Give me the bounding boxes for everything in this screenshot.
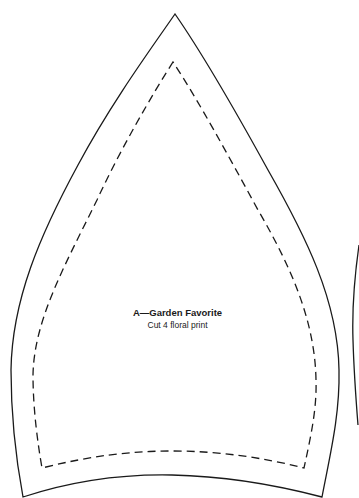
piece-cut-instruction: Cut 4 floral print — [0, 321, 359, 330]
cutting-line — [11, 14, 339, 497]
pattern-page: A—Garden Favorite Cut 4 floral print — [0, 0, 359, 498]
pattern-template-drawing — [0, 0, 359, 498]
piece-title: A—Garden Favorite — [0, 308, 359, 318]
seam-line — [33, 62, 316, 468]
adjacent-piece-edge — [353, 245, 359, 425]
piece-label: A—Garden Favorite Cut 4 floral print — [0, 308, 359, 329]
